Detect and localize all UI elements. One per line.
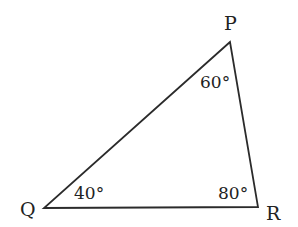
- angle-label-p: 60°: [200, 72, 230, 92]
- angle-label-r: 80°: [218, 183, 248, 203]
- vertex-label-r: R: [266, 202, 281, 224]
- angle-label-q: 40°: [74, 183, 104, 203]
- vertex-label-q: Q: [20, 198, 36, 220]
- vertex-label-p: P: [224, 12, 237, 34]
- triangle-diagram: P Q R 60° 40° 80°: [0, 0, 298, 227]
